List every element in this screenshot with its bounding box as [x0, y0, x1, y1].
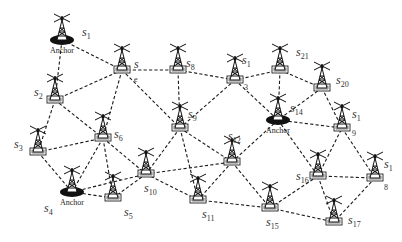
edge-s2-s6	[55, 100, 103, 138]
node-s2	[47, 74, 63, 103]
node-s4: Anchor	[60, 166, 84, 207]
node-s5	[105, 172, 121, 201]
node-label-s21: s21	[296, 45, 309, 61]
edge-s12-s15	[232, 162, 270, 208]
anchor-label: Anchor	[60, 198, 84, 207]
node-label-s5: s5	[124, 205, 133, 221]
node-s7	[114, 44, 130, 73]
edge-s6-s10	[103, 138, 146, 174]
node-s1: Anchor	[50, 14, 74, 55]
node-label-s19: s1	[352, 107, 361, 123]
node-s8	[170, 44, 186, 73]
node-s21	[272, 44, 288, 73]
node-s14: Anchor	[266, 94, 290, 135]
node-s13	[227, 54, 243, 83]
node-s18	[367, 152, 383, 181]
node-label-s18: s1	[384, 157, 393, 173]
subscript-fragment: e	[134, 75, 138, 84]
node-s15	[262, 182, 278, 211]
edge-s16-s18	[318, 176, 375, 178]
node-label-s3: s3	[14, 137, 23, 153]
node-label-s1: s1	[82, 25, 91, 41]
node-s19	[334, 102, 350, 131]
node-s9	[172, 102, 188, 131]
node-label-s14: s14	[290, 101, 303, 117]
subscript-fragment: 9	[352, 129, 356, 138]
node-s6	[95, 112, 111, 141]
edge-s9-s12	[180, 128, 232, 162]
network-diagram: Anchors1s2s3Anchors4s5s6ss8s9s10s11s12s1…	[0, 0, 402, 242]
nodes-layer: Anchors1s2s3Anchors4s5s6ss8s9s10s11s12s1…	[14, 14, 393, 231]
node-label-s4: s4	[44, 201, 53, 217]
node-label-s16: s16	[296, 169, 309, 185]
node-label-s17: s17	[348, 213, 361, 229]
edge-s18-s17	[334, 178, 375, 222]
node-label-s11: s11	[202, 207, 214, 223]
edge-s1-s7	[62, 40, 122, 70]
node-label-s15: s15	[266, 215, 279, 231]
edge-s10-s12	[146, 162, 232, 174]
edge-s8-s13	[178, 70, 235, 80]
edge-s13-s14	[235, 80, 278, 120]
edge-s6-s4	[72, 138, 103, 192]
node-label-s7: s	[134, 57, 139, 71]
node-s3	[30, 126, 46, 155]
node-s10	[138, 148, 154, 177]
edge-s2-s7	[55, 70, 122, 100]
node-label-s20: s20	[336, 73, 349, 89]
node-label-s6: s6	[114, 127, 123, 143]
node-label-s2: s2	[34, 85, 43, 101]
node-label-s8: s8	[186, 56, 195, 72]
anchor-label: Anchor	[266, 126, 290, 135]
subscript-fragment: 8	[384, 183, 388, 192]
node-label-s12: s12	[228, 129, 241, 145]
edge-s7-s9	[122, 70, 180, 128]
node-label-s13: s1	[242, 53, 251, 69]
node-s11	[190, 174, 206, 203]
edge-s11-s15	[198, 200, 270, 208]
node-s20	[314, 62, 330, 91]
edge-s15-s17	[270, 208, 334, 222]
edge-s15-s16	[270, 176, 318, 208]
subscript-fragment: 3	[244, 83, 248, 92]
edge-s9-s10	[146, 128, 180, 174]
node-label-s10: s10	[144, 181, 157, 197]
extra-labels-layer: 398e	[134, 75, 388, 192]
node-label-s9: s9	[188, 107, 197, 123]
node-s17	[326, 196, 342, 225]
anchor-label: Anchor	[50, 46, 74, 55]
edge-s3-s6	[38, 138, 103, 152]
